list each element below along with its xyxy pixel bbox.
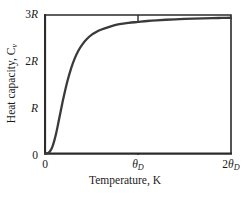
debye-heat-capacity-chart: 3R 2R R 0 <box>0 0 250 197</box>
plot-area <box>44 14 232 155</box>
x-tick-zero-number: 0 <box>42 158 48 170</box>
x-tick-label-thetaD: θD <box>132 159 144 172</box>
plot-svg <box>44 14 232 155</box>
x-tick-label-zero: 0 <box>42 159 48 171</box>
y-tick-3R-symbol: R <box>31 8 38 20</box>
y-tick-2R-symbol: R <box>31 55 38 67</box>
debye-curve <box>45 18 231 154</box>
x-tick-2thetaD-subscript: D <box>234 163 240 172</box>
x-tick-thetaD-subscript: D <box>138 163 144 172</box>
y-tick-R-symbol: R <box>31 102 38 114</box>
y-axis-title: Heat capacity, Cv <box>6 9 19 159</box>
y-tick-zero-number: 0 <box>32 149 38 161</box>
plot-frame-top-right <box>44 15 231 154</box>
y-axis-title-text: Heat capacity, C <box>5 48 17 124</box>
x-axis-title: Temperature, K <box>0 175 250 187</box>
x-tick-label-2thetaD: 2θD <box>222 159 239 172</box>
y-axis-title-subscript: v <box>10 44 19 48</box>
